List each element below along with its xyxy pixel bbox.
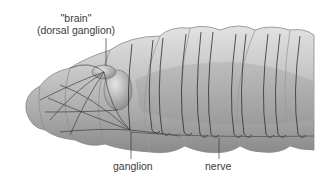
brain-label-line1: "brain" xyxy=(36,12,116,24)
nerve-label: nerve xyxy=(205,160,231,172)
brain-label-line2: (dorsal ganglion) xyxy=(36,24,116,36)
brain-label: "brain" (dorsal ganglion) xyxy=(36,12,116,36)
ganglion-label: ganglion xyxy=(113,160,153,172)
